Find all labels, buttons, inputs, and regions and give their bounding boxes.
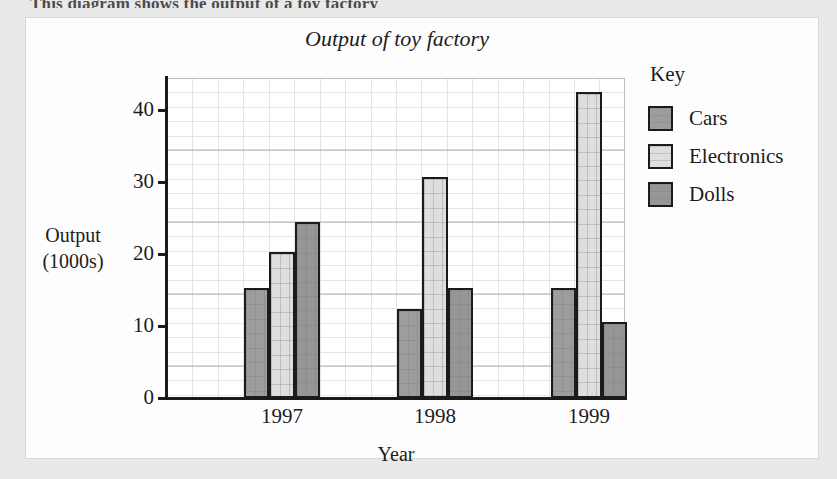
y-tick-label-30: 30 (110, 169, 154, 194)
bar-1998-electronics (422, 177, 447, 398)
bar-1998-dolls (448, 288, 473, 398)
legend-label-dolls: Dolls (689, 182, 735, 207)
y-tick-label-0: 0 (110, 385, 154, 410)
y-axis-title: Output (1000s) (14, 222, 132, 275)
chart-title: Output of toy factory (168, 26, 626, 52)
legend-swatch-cars (648, 106, 673, 131)
bar-1999-cars (551, 288, 576, 398)
legend-swatch-electronics (648, 144, 673, 169)
y-axis-title-line1: Output (14, 222, 132, 248)
y-axis-line (165, 76, 168, 400)
legend-row-electronics: Electronics (648, 137, 824, 175)
legend-title: Key (648, 62, 824, 87)
plot-area (167, 78, 625, 398)
plot-border-top (167, 78, 625, 79)
x-axis-title: Year (167, 443, 625, 466)
bar-1999-dolls (602, 322, 627, 398)
legend-label-cars: Cars (689, 106, 728, 131)
legend-row-cars: Cars (648, 99, 824, 137)
bar-chart-figure: Output of toy factory 010203040 Output (… (0, 0, 837, 479)
legend-swatch-dolls (648, 182, 673, 207)
y-tick-10 (158, 325, 168, 328)
bar-1997-electronics (269, 252, 294, 398)
legend: Key CarsElectronicsDolls (648, 62, 824, 213)
x-group-label-1998: 1998 (375, 404, 495, 429)
bar-1999-electronics (576, 92, 601, 398)
y-tick-label-10: 10 (110, 313, 154, 338)
bar-1997-cars (244, 288, 269, 398)
bar-1998-cars (397, 309, 422, 398)
y-axis-title-line2: (1000s) (14, 248, 132, 274)
bar-1997-dolls (295, 222, 320, 398)
y-tick-0 (158, 397, 168, 400)
legend-row-dolls: Dolls (648, 175, 824, 213)
y-tick-20 (158, 253, 168, 256)
y-tick-label-40: 40 (110, 97, 154, 122)
x-group-label-1997: 1997 (222, 404, 342, 429)
y-tick-30 (158, 181, 168, 184)
y-tick-40 (158, 109, 168, 112)
legend-rows: CarsElectronicsDolls (648, 99, 824, 213)
legend-label-electronics: Electronics (689, 144, 783, 169)
x-group-label-1999: 1999 (529, 404, 649, 429)
